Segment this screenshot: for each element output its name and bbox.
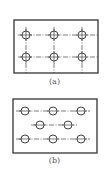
- frame-0: [14, 20, 98, 73]
- caption-b: (b): [0, 156, 109, 165]
- caption-a: (a): [0, 77, 109, 86]
- diagram-canvas: [0, 0, 109, 173]
